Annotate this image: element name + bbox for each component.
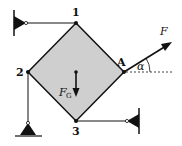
- force-F-arrow-icon: [124, 42, 172, 72]
- node-A-label: A: [116, 56, 126, 69]
- angle-arc: [146, 58, 150, 72]
- ground-support-2-icon: [15, 121, 42, 136]
- node-2-label: 2: [16, 66, 24, 79]
- statics-diagram: 1 2 A 3 F G F α: [0, 0, 182, 146]
- wall-support-1-icon: [14, 10, 28, 36]
- wall-support-3-icon: [125, 108, 139, 134]
- node-1-label: 1: [72, 6, 80, 19]
- weight-subscript: G: [66, 92, 72, 100]
- node-2-dot: [26, 70, 30, 74]
- angle-alpha-label: α: [137, 60, 145, 73]
- node-3-label: 3: [72, 125, 80, 138]
- force-F-label: F: [159, 25, 168, 38]
- node-3-dot: [74, 119, 78, 123]
- node-1-dot: [74, 21, 78, 25]
